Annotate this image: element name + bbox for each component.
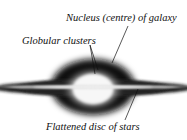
label-nucleus: Nucleus (centre) of galaxy <box>66 12 177 23</box>
label-globular-clusters: Globular clusters <box>22 35 96 46</box>
nucleus-leader <box>112 26 128 63</box>
galaxy-disc <box>0 85 187 88</box>
galaxy-nucleus <box>65 69 121 109</box>
label-flattened-disc: Flattened disc of stars <box>46 121 140 132</box>
